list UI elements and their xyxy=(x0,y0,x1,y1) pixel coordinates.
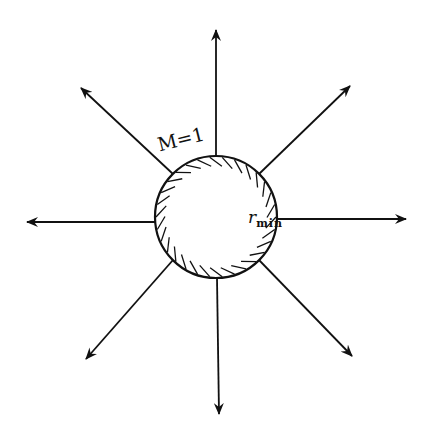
radius-subscript: min xyxy=(256,217,283,230)
arrow-down xyxy=(217,278,219,414)
sonic-sphere-diagram xyxy=(0,0,424,439)
radius-symbol: r xyxy=(248,207,256,227)
arrow-upper-left xyxy=(81,88,173,174)
arrow-upper-right xyxy=(259,86,350,174)
arrow-lower-left xyxy=(86,260,173,359)
outflow-arrows xyxy=(27,30,406,414)
arrow-lower-right xyxy=(259,260,352,356)
rmin-label: rmin xyxy=(248,207,283,230)
